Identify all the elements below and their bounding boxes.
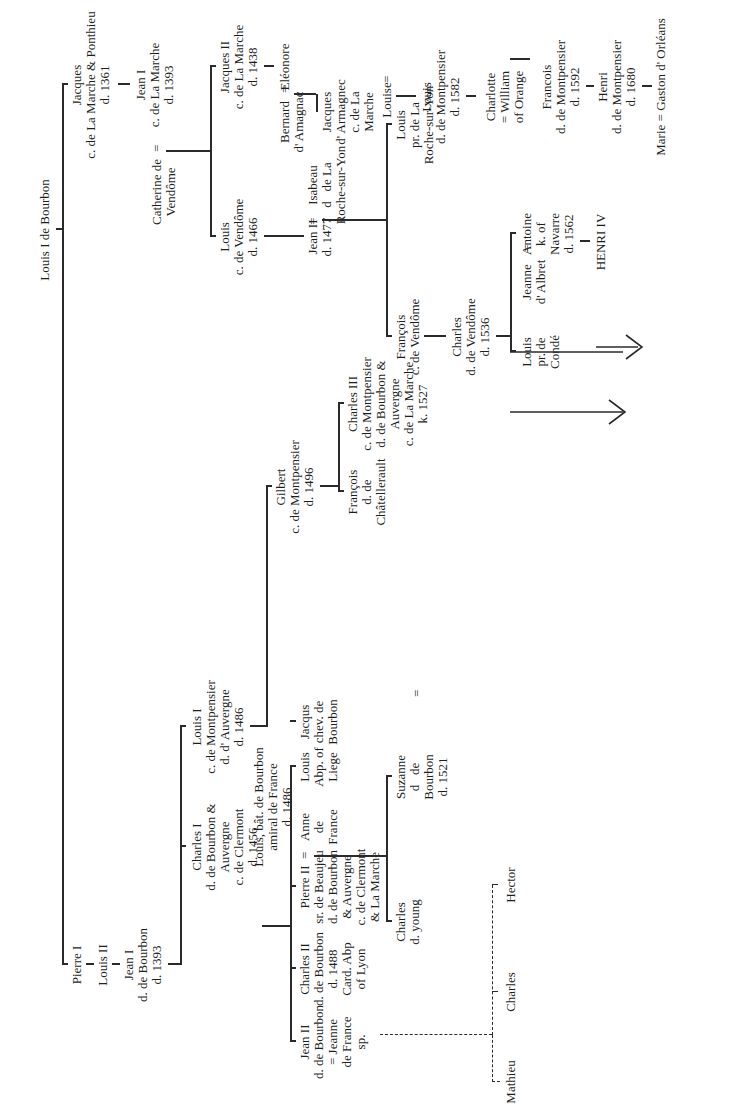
node-jean-i-de-bourbon: Jean I d. de Bourbon d. 1393 <box>122 928 164 1002</box>
connector <box>510 234 512 352</box>
connector <box>86 963 94 965</box>
node-gilbert-montpensier: Gilbert c. de Montpensier d. 1496 <box>274 440 316 534</box>
connector <box>210 67 212 237</box>
connector <box>386 123 392 125</box>
node-jacques-ii-la-marche: Jacques II c. de La Marche d. 1438 <box>218 25 260 109</box>
node-louis-d-de-montpensier: Louis d. de Montpensier d. 1582 <box>420 50 462 144</box>
connector <box>290 1040 296 1042</box>
connector <box>338 402 344 404</box>
marriage-sign-suzanne-charles-iii: = <box>410 690 424 697</box>
node-pierre-i: Pierre I <box>70 946 84 985</box>
connector <box>210 65 216 67</box>
connector <box>62 83 68 85</box>
connector <box>314 855 386 857</box>
node-henri-iv: HENRI IV <box>594 214 608 271</box>
node-louise: Louise <box>380 82 394 117</box>
connector <box>62 963 68 965</box>
connector <box>290 767 292 1042</box>
connector <box>262 925 290 927</box>
connector-dashed <box>492 1081 500 1082</box>
node-jeanne-d-albret: Jeanne d' Albret <box>520 260 548 305</box>
marriage-sign: = <box>380 76 394 83</box>
node-jean-i-la-marche: Jean I c. de La Marche d. 1393 <box>134 43 176 127</box>
connector <box>166 150 210 152</box>
connector <box>266 485 272 487</box>
marriage-sign: = <box>298 852 312 859</box>
connector-dashed <box>492 885 493 1035</box>
connector <box>396 95 416 97</box>
connector <box>338 404 340 492</box>
connector <box>210 235 216 237</box>
node-charles-bastard: Charles <box>504 972 518 1012</box>
connector <box>180 845 186 847</box>
node-charles-d-de-vendome: Charles d. de Vendôme d. 1536 <box>450 298 492 375</box>
node-louis-abp-liege: Louis Abp. of Liege <box>298 747 340 787</box>
connector <box>510 58 530 60</box>
connector-dashed <box>492 1035 493 1082</box>
node-francois-chatellerault: François d. de Châtellerault <box>346 458 388 525</box>
node-louis-i-de-bourbon: Louis I de Bourbon <box>38 179 52 280</box>
connector <box>466 95 476 97</box>
node-pierre-ii: Pierre II sr. de Beaujeu d. de Bourbon &… <box>298 849 382 926</box>
node-jean-ii-de-bourbon: Jean II d. de Bourbon = Jeanne de France… <box>298 1005 368 1079</box>
node-anne-de-france: Anne de France <box>298 809 340 844</box>
node-louis-c-de-vendome: Louis c. de Vendôme d. 1466 <box>218 199 260 276</box>
connector <box>386 775 392 777</box>
connector <box>386 777 388 922</box>
connector <box>322 219 386 221</box>
node-charles-i: Charles I d. de Bourbon & Auvergne c. de… <box>190 803 260 890</box>
node-jacques-la-marche: Jacques c. de La Marche & Ponthieu d. 13… <box>70 11 112 158</box>
node-isabeau-label: Isabeau d de La Roche-sur-Yon <box>305 146 348 225</box>
node-catherine-de-vendome: Catherine de Vendôme <box>150 159 178 225</box>
connector <box>290 765 296 767</box>
node-charles-ii: Charles II d. de Bourbon d. 1488 Card. A… <box>298 932 368 1006</box>
connector <box>180 725 186 727</box>
arrow-down-icon <box>505 392 635 432</box>
node-henri-montpensier: Henri d. de Montpensier d. 1680 <box>596 40 638 134</box>
node-charles-iii: Charles III c. de Montpensier d. de Bour… <box>346 357 430 451</box>
connector <box>580 240 590 242</box>
connector <box>290 967 296 969</box>
node-suzanne: Suzanne d de Bourbon d. 1521 <box>394 754 450 800</box>
connector <box>290 720 296 722</box>
connector <box>294 93 316 95</box>
node-mathieu: Mathieu <box>504 1060 518 1103</box>
marriage-sign: = <box>520 245 534 252</box>
connector <box>290 885 296 887</box>
arrow-right-icon <box>590 317 650 377</box>
marriage-sign: = <box>150 145 164 152</box>
connector-dashed <box>492 991 498 992</box>
connector <box>320 485 338 487</box>
connector <box>510 232 516 234</box>
connector <box>386 125 388 337</box>
connector <box>338 490 344 492</box>
node-hector: Hector <box>504 867 518 902</box>
node-louis-ii: Louis II <box>96 944 110 986</box>
connector <box>386 335 392 337</box>
node-francois-d-de-montpensier: Francois d. de Montpensier d. 1592 <box>540 40 582 134</box>
connector <box>266 487 268 727</box>
connector <box>424 335 446 337</box>
connector <box>112 963 120 965</box>
connector <box>168 963 180 965</box>
node-louis-batard: Louis, bât. de Bourbon amiral de France … <box>252 747 294 867</box>
node-marie-gaston: Marie = Gaston d' Orléans <box>654 18 668 155</box>
connector <box>496 335 510 337</box>
node-jacqus-chev-bourbon: Jacqus chev. de Bourbon <box>298 699 340 745</box>
connector-dashed <box>492 884 498 885</box>
connector <box>264 65 274 67</box>
node-louis-i-montpensier: Louis I c. de Montpensier d. d' Auvergne… <box>190 680 246 774</box>
connector <box>316 94 318 112</box>
connector-trunk <box>62 85 64 965</box>
node-charlotte: Charlotte = William of Orange <box>484 71 526 123</box>
node-jacques-armagnac: Jacques d' Armagnec c. de La Marche <box>320 79 376 145</box>
connector-dashed <box>380 1034 492 1035</box>
node-charles-d-young: Charles d. young <box>394 899 422 945</box>
connector <box>386 920 392 922</box>
connector <box>250 725 266 727</box>
connector <box>264 235 304 237</box>
connector <box>586 85 594 87</box>
connector <box>642 85 652 87</box>
node-eleonore: Eléonore <box>278 44 292 91</box>
